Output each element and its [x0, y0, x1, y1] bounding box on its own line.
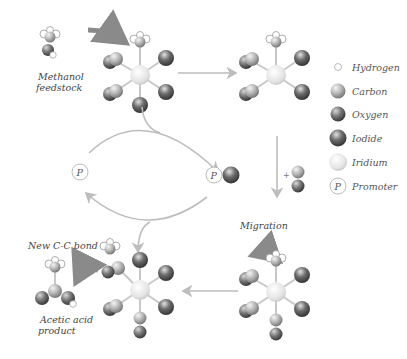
- product-arrow-icon: [78, 269, 98, 278]
- svg-text:Hydrogen: Hydrogen: [351, 62, 400, 73]
- svg-text:Iodide: Iodide: [351, 133, 383, 144]
- carbon-monoxide: [292, 166, 305, 193]
- legend-item-iridium: Iridium: [329, 153, 388, 171]
- svg-text:P: P: [334, 181, 342, 192]
- plus-sign: +: [283, 171, 290, 180]
- cycle-exit-arrow: [138, 222, 150, 252]
- iodide-icon: [330, 130, 347, 147]
- migration-arrow-icon: [256, 237, 270, 254]
- iridium-icon: [329, 153, 347, 171]
- methanol-molecule: [40, 27, 60, 59]
- product-label-line2: product: [38, 325, 76, 336]
- bent-arrow-icon: [88, 30, 122, 40]
- iridium-complex-1: [103, 32, 174, 114]
- migration-label: Migration: [239, 220, 288, 231]
- legend-item-iodide: Iodide: [330, 130, 383, 147]
- methanol-label-line1: Methanol: [37, 71, 84, 82]
- legend-item-carbon: Carbon: [331, 84, 388, 99]
- iridium-complex-2: [239, 32, 310, 102]
- product-label-line1: Acetic acid: [39, 314, 93, 325]
- svg-text:Iridium: Iridium: [351, 157, 388, 168]
- svg-text:P: P: [210, 170, 218, 181]
- methanol-label-line2: feedstock: [35, 82, 83, 93]
- legend-item-promoter: P Promoter: [330, 178, 399, 194]
- promoter-left: P: [72, 164, 88, 180]
- iridium-complex-4: [239, 251, 310, 341]
- cycle-arrow-bottom: [86, 193, 207, 220]
- new-bond-label: New C-C bond: [27, 240, 98, 251]
- svg-text:Promoter: Promoter: [351, 181, 399, 192]
- legend-item-oxygen: Oxygen: [331, 107, 389, 122]
- legend-item-hydrogen: Hydrogen: [335, 62, 400, 73]
- catalytic-cycle-diagram: Methanol feedstock: [0, 0, 407, 359]
- carbon-icon: [331, 84, 346, 99]
- svg-text:P: P: [76, 167, 84, 178]
- cycle-arrow-top: [89, 131, 218, 172]
- svg-text:Carbon: Carbon: [352, 86, 387, 97]
- acetic-acid-molecule: [35, 257, 76, 308]
- oxygen-icon: [331, 107, 346, 122]
- hydrogen-icon: [335, 64, 342, 71]
- iridium-complex-3: [100, 239, 174, 339]
- svg-text:Oxygen: Oxygen: [352, 109, 388, 120]
- promoter-iodide-right: P: [206, 167, 240, 184]
- legend: Hydrogen Carbon Oxygen Iodide Iridium P …: [329, 62, 400, 194]
